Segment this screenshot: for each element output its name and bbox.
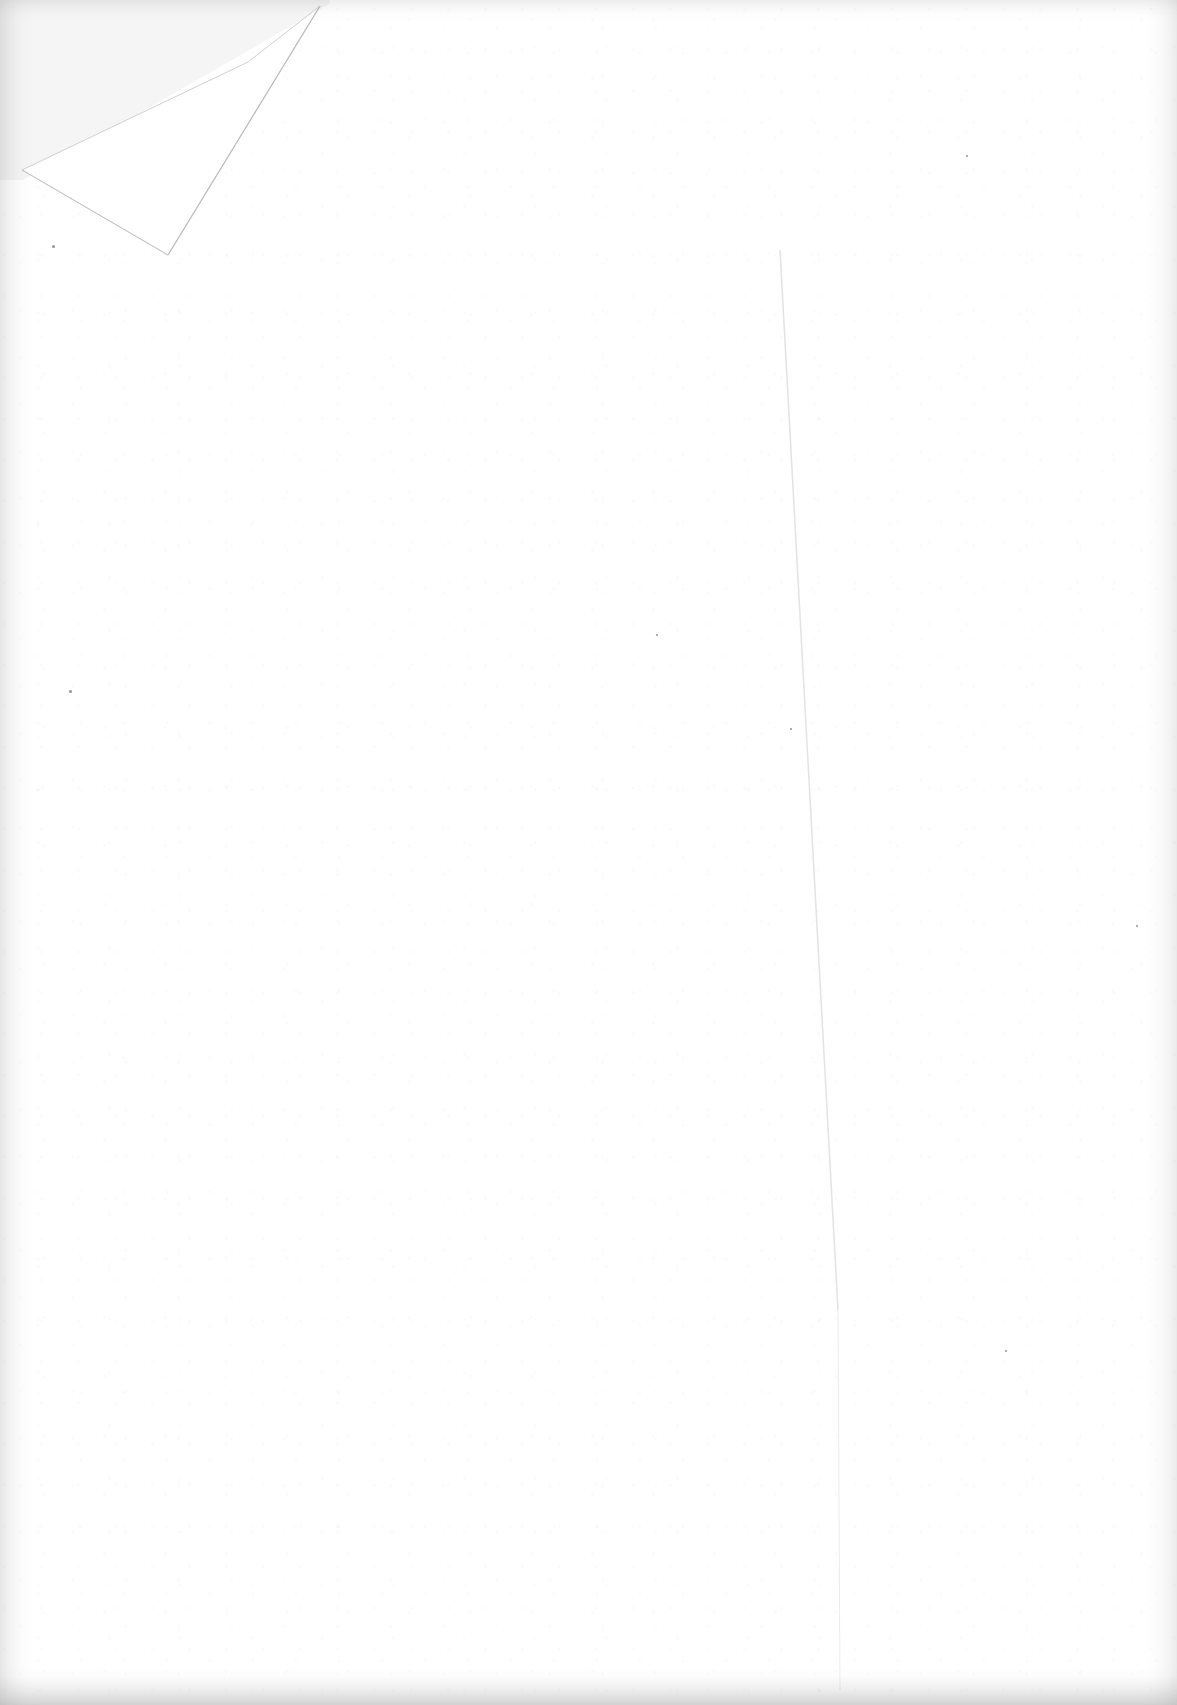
dust-speck — [52, 245, 55, 248]
folded-corner-flap — [0, 0, 330, 260]
dust-speck — [1005, 1350, 1007, 1352]
crease-line-faint — [838, 1310, 840, 1690]
dust-speck — [69, 690, 72, 693]
dust-speck — [790, 728, 792, 730]
fold-flap-shape — [22, 6, 320, 255]
dust-speck — [1136, 925, 1138, 927]
dust-speck — [656, 634, 658, 636]
scanned-page: Blank scanned page — [0, 0, 1177, 1705]
crease-line — [780, 250, 838, 1310]
bottom-edge-shadow — [0, 1675, 1177, 1705]
dust-speck — [966, 155, 968, 157]
